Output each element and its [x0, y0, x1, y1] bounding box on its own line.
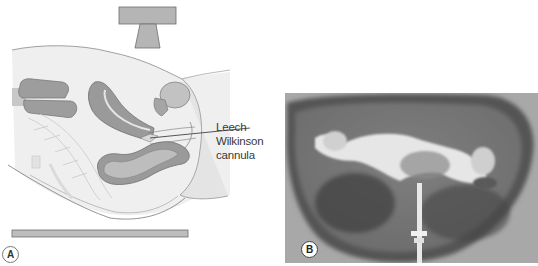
body-outline: [8, 46, 230, 219]
cannula-callout-label: Leech Wilkinson cannula: [216, 120, 285, 162]
panel-b-radiograph: B: [285, 93, 538, 263]
hysterosalpingogram-image: [285, 93, 538, 263]
xray-table: [12, 230, 188, 237]
xray-tube-icon: [119, 7, 176, 48]
panel-a-illustration: Leech Wilkinson cannula A: [0, 0, 285, 266]
callout-line-2: cannula: [216, 148, 285, 162]
panel-label-b: B: [301, 241, 318, 258]
panel-label-a: A: [2, 246, 19, 263]
callout-line-1: Leech Wilkinson: [216, 120, 285, 148]
